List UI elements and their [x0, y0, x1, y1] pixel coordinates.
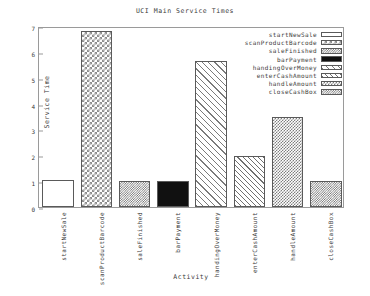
bar	[119, 181, 150, 207]
legend-item: scanProductBarcode	[245, 39, 342, 46]
bar	[272, 117, 303, 207]
chart-container: UCI Main Service Times Service Time 0123…	[0, 0, 370, 296]
y-tick-mark	[39, 79, 43, 80]
y-tick-mark	[39, 209, 43, 210]
y-tick-label: 0	[31, 206, 39, 213]
bar	[234, 156, 265, 207]
bar	[195, 61, 226, 207]
y-tick-mark	[39, 131, 43, 132]
legend-item: handleAmount	[269, 80, 342, 87]
x-tick-label: closeCashBox	[327, 212, 334, 261]
legend-label: barPayment	[277, 56, 317, 63]
legend-swatch	[321, 56, 342, 62]
y-tick-mark	[39, 53, 43, 54]
x-tick-label: barPayment	[174, 212, 181, 253]
legend-label: startNewSale	[269, 31, 317, 38]
legend-item: saleFinished	[269, 47, 342, 54]
y-tick-label: 6	[31, 50, 39, 57]
legend-label: enterCashAmount	[257, 72, 317, 79]
legend-swatch	[321, 48, 342, 54]
y-tick-label: 3	[31, 128, 39, 135]
legend-swatch	[321, 81, 342, 87]
x-tick-label: enterCashAmount	[251, 212, 258, 273]
legend-item: enterCashAmount	[257, 72, 342, 79]
legend-swatch	[321, 32, 342, 38]
legend-label: handingOverMoney	[253, 64, 317, 71]
legend-item: handingOverMoney	[253, 64, 342, 71]
y-tick-label: 4	[31, 102, 39, 109]
bar	[42, 180, 73, 207]
legend-label: saleFinished	[269, 47, 317, 54]
y-tick-mark	[39, 157, 43, 158]
y-tick-mark	[39, 28, 43, 29]
x-tick-label: startNewSale	[60, 212, 67, 261]
legend-label: handleAmount	[269, 80, 317, 87]
legend-swatch	[321, 40, 342, 46]
y-tick-mark	[39, 105, 43, 106]
y-axis-label: Service Time	[43, 42, 51, 162]
bar	[310, 181, 341, 207]
x-tick-label: handleAmount	[289, 212, 296, 261]
y-tick-label: 2	[31, 154, 39, 161]
legend-item: closeCashBox	[269, 88, 342, 95]
x-tick-label: saleFinished	[136, 212, 143, 261]
y-tick-label: 1	[31, 180, 39, 187]
legend-swatch	[321, 73, 342, 79]
chart-legend: startNewSalescanProductBarcodesaleFinish…	[245, 31, 342, 95]
legend-label: closeCashBox	[269, 88, 317, 95]
bar	[81, 31, 112, 207]
bar	[157, 181, 188, 207]
x-tick-label: handingOverMoney	[213, 212, 220, 277]
legend-swatch	[321, 65, 342, 71]
legend-item: barPayment	[277, 56, 342, 63]
x-axis-label: Activity	[38, 273, 344, 281]
legend-label: scanProductBarcode	[245, 39, 317, 46]
y-tick-label: 7	[31, 25, 39, 32]
legend-item: startNewSale	[269, 31, 342, 38]
chart-title: UCI Main Service Times	[0, 7, 370, 15]
y-tick-label: 5	[31, 76, 39, 83]
legend-swatch	[321, 89, 342, 95]
